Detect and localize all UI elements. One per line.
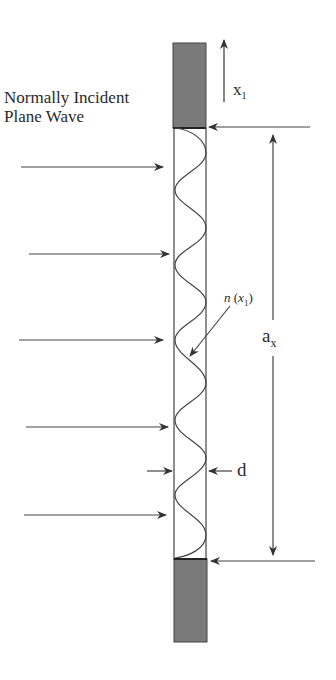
- x1-axis-label: x1: [233, 80, 247, 101]
- incident-wave-arrows: [19, 167, 169, 515]
- aperture-label: ax: [262, 325, 276, 351]
- top-screen-block: [173, 43, 206, 128]
- thickness-label: d: [237, 459, 247, 481]
- index-profile-label: n (x1): [224, 290, 253, 308]
- index-profile-pointer: [190, 306, 230, 356]
- profile-arg-sub: 1: [244, 298, 249, 308]
- diagram-canvas: Normally Incident Plane Wave x1 n (x1) a…: [0, 0, 336, 680]
- index-profile-curve: [175, 128, 206, 558]
- title-line-1: Normally Incident: [4, 88, 129, 107]
- grating-region: [174, 128, 206, 560]
- title-line-2: Plane Wave: [4, 107, 129, 126]
- bottom-screen-block: [174, 559, 207, 642]
- profile-fn: n: [224, 290, 231, 305]
- incident-wave-label: Normally Incident Plane Wave: [4, 88, 129, 126]
- aperture-subscript: x: [270, 336, 276, 350]
- axis-symbol: x: [233, 80, 242, 99]
- axis-subscript: 1: [242, 90, 247, 101]
